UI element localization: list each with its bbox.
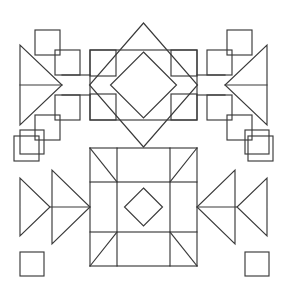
top-inner-diamond [111,52,177,118]
top-center-corner-square-tr [171,50,197,76]
bottom-diagonal-bl [90,232,117,266]
top-center-square [90,50,197,120]
geometric-line-art-canvas [0,0,287,289]
bottom-corner-square-bl [20,252,44,276]
top-left-stair-square-3 [55,95,80,120]
bottom-corner-square-br [245,252,269,276]
top-center-corner-square-br [171,94,197,120]
bottom-right-triangle-inner [237,178,267,236]
top-center-corner-square-tl [90,50,116,76]
top-left-stair-square-1 [35,30,60,55]
top-right-stair-square-2 [207,50,232,75]
top-figure [14,23,273,161]
bottom-corner-square-tr [245,130,269,154]
bottom-corner-square-tl [20,130,44,154]
bottom-center-diamond [125,188,163,226]
top-left-stair-square-2 [55,50,80,75]
top-right-stair-square-1 [227,30,252,55]
top-outer-diamond [90,23,198,147]
top-center-corner-square-bl [90,94,116,120]
bottom-diagonal-tr [170,148,197,182]
bottom-diagonal-br [170,232,197,266]
bottom-center-horizontal-bar [90,182,197,232]
figure-page [0,0,287,289]
bottom-diagonal-tl [90,148,117,182]
top-right-stair-square-3 [207,95,232,120]
bottom-left-triangle-inner [20,178,50,236]
bottom-figure [20,130,269,276]
